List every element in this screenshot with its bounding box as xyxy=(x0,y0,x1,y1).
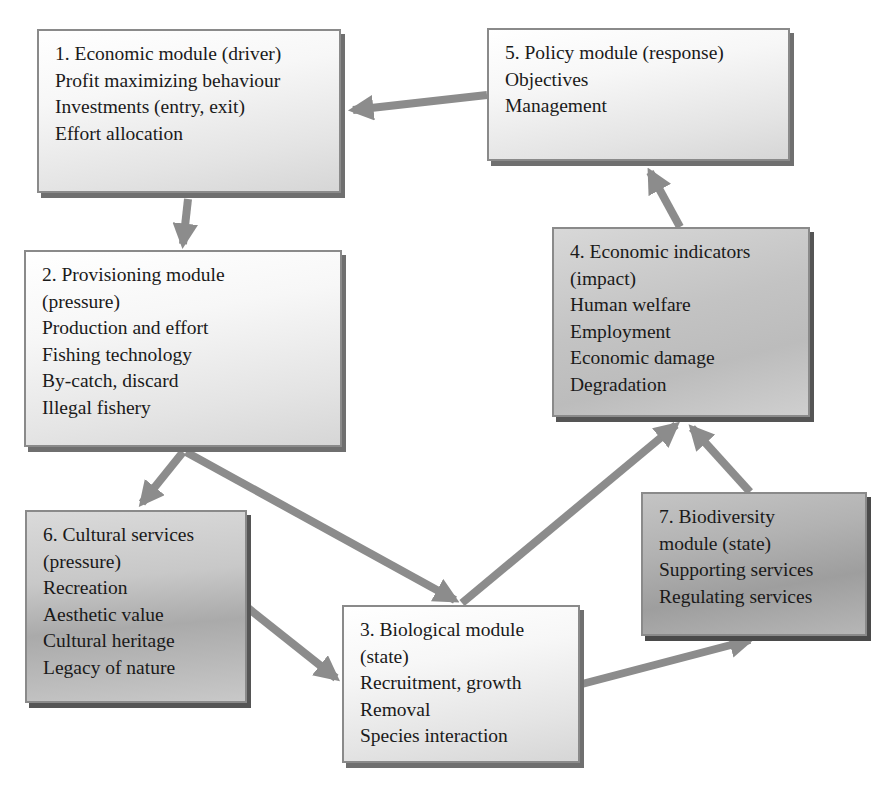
module-item: Effort allocation xyxy=(55,121,339,148)
module-item: Profit maximizing behaviour xyxy=(55,68,339,95)
module-title: 2. Provisioning module xyxy=(42,262,340,289)
arrow-biological-to-biodiversity xyxy=(582,640,750,684)
arrow-economic-to-provisioning xyxy=(183,199,188,244)
module-item: (pressure) xyxy=(42,289,340,316)
module-item: Economic damage xyxy=(570,345,808,372)
module-title: 3. Biological module xyxy=(360,617,578,644)
module-item: Employment xyxy=(570,319,808,346)
module-item: Objectives xyxy=(505,67,788,94)
module-biodiversity-state: 7. Biodiversity module (state) Supportin… xyxy=(641,492,867,636)
module-economic-driver: 1. Economic module (driver) Profit maxim… xyxy=(37,29,341,193)
module-item: Cultural heritage xyxy=(43,628,245,655)
module-item: Fishing technology xyxy=(42,342,340,369)
module-title: 6. Cultural services xyxy=(43,522,245,549)
module-item: Removal xyxy=(360,697,578,724)
arrow-cultural-to-biological xyxy=(248,608,336,678)
module-policy-response: 5. Policy module (response) Objectives M… xyxy=(487,28,790,161)
module-item: Legacy of nature xyxy=(43,655,245,682)
module-economic-indicators-impact: 4. Economic indicators (impact) Human we… xyxy=(552,227,810,417)
module-title: 4. Economic indicators xyxy=(570,239,808,266)
module-title: 5. Policy module (response) xyxy=(505,40,788,67)
module-provisioning-pressure: 2. Provisioning module (pressure) Produc… xyxy=(24,250,342,447)
module-item: Species interaction xyxy=(360,723,578,750)
module-title: 1. Economic module (driver) xyxy=(55,41,339,68)
module-item: Investments (entry, exit) xyxy=(55,94,339,121)
module-item: Recreation xyxy=(43,575,245,602)
module-item: Recruitment, growth xyxy=(360,670,578,697)
module-item: (state) xyxy=(360,644,578,671)
module-item: Aesthetic value xyxy=(43,602,245,629)
module-cultural-services-pressure: 6. Cultural services (pressure) Recreati… xyxy=(25,510,247,703)
module-item: (impact) xyxy=(570,266,808,293)
module-item: (pressure) xyxy=(43,549,245,576)
module-item: By-catch, discard xyxy=(42,368,340,395)
module-item: Human welfare xyxy=(570,292,808,319)
module-item: Illegal fishery xyxy=(42,395,340,422)
arrow-indicators-to-policy xyxy=(650,172,680,227)
module-item: Degradation xyxy=(570,372,808,399)
module-item: Management xyxy=(505,93,788,120)
module-item: Regulating services xyxy=(659,584,865,611)
module-item: Supporting services xyxy=(659,557,865,584)
arrow-biodiversity-to-indicators xyxy=(692,428,750,492)
arrow-provisioning-to-cultural xyxy=(142,452,183,503)
arrow-policy-to-economic xyxy=(353,95,487,110)
module-title: 7. Biodiversity xyxy=(659,504,865,531)
module-biological-state: 3. Biological module (state) Recruitment… xyxy=(342,605,580,763)
module-item: module (state) xyxy=(659,531,865,558)
module-item: Production and effort xyxy=(42,315,340,342)
